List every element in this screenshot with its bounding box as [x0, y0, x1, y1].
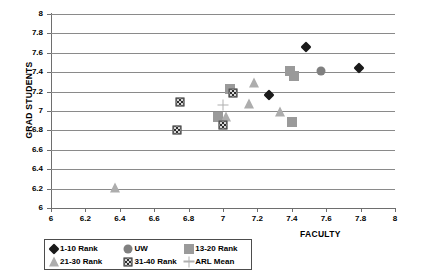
data-point: [317, 67, 326, 76]
x-tick-mark: [292, 208, 293, 212]
chart-legend: 1-10 RankUW13-20 Rank21-30 Rank31-40 Ran…: [44, 239, 252, 270]
data-point: [219, 120, 228, 129]
y-tick-mark: [47, 92, 51, 93]
y-tick-label: 6.4: [3, 165, 43, 173]
gridline-y: [51, 169, 395, 170]
x-tick-mark: [223, 208, 224, 212]
y-tick-label: 7.2: [3, 88, 43, 96]
gridline-y: [51, 92, 395, 93]
hatched-square-icon: [123, 256, 134, 267]
y-tick-mark: [47, 72, 51, 73]
y-tick-mark: [47, 169, 51, 170]
y-tick-mark: [47, 14, 51, 15]
gridline-y: [51, 53, 395, 54]
y-tick-label: 8: [3, 10, 43, 18]
square-icon: [183, 243, 194, 254]
data-point: [289, 71, 299, 81]
y-tick-label: 6.6: [3, 146, 43, 154]
x-tick-label: 8: [375, 215, 415, 223]
data-point: [287, 117, 297, 127]
y-tick-mark: [47, 189, 51, 190]
x-tick-mark: [361, 208, 362, 212]
x-tick-mark: [257, 208, 258, 212]
data-point: [229, 88, 238, 97]
x-tick-mark: [51, 208, 52, 212]
legend-row: 1-10 RankUW13-20 Rank: [48, 242, 248, 255]
diamond-icon: [48, 243, 59, 254]
gridline-y: [51, 33, 395, 34]
y-tick-mark: [47, 150, 51, 151]
x-tick-mark: [189, 208, 190, 212]
legend-label: ARL Mean: [195, 257, 234, 266]
y-tick-label: 6.8: [3, 126, 43, 134]
legend-label: 31-40 Rank: [135, 257, 177, 266]
circle-icon: [123, 243, 134, 254]
legend-label: 13-20 Rank: [195, 244, 237, 253]
scatter-chart: GRAD STUDENTS FACULTY 66.26.46.66.877.27…: [0, 0, 421, 280]
plus-icon: [183, 256, 194, 267]
y-tick-label: 7.8: [3, 29, 43, 37]
x-tick-mark: [85, 208, 86, 212]
data-point: [218, 100, 229, 111]
x-tick-mark: [395, 208, 396, 212]
y-axis-title: GRAD STUDENTS: [24, 40, 34, 160]
x-tick-mark: [154, 208, 155, 212]
legend-item-31-40-rank[interactable]: 31-40 Rank: [123, 255, 184, 268]
legend-label: 1-10 Rank: [60, 244, 98, 253]
y-tick-label: 7: [3, 107, 43, 115]
gridline-y: [51, 150, 395, 151]
legend-item-21-30-rank[interactable]: 21-30 Rank: [48, 255, 123, 268]
data-point: [110, 182, 120, 192]
x-tick-mark: [326, 208, 327, 212]
y-tick-mark: [47, 53, 51, 54]
y-tick-label: 6.2: [3, 185, 43, 193]
data-point: [249, 77, 259, 87]
data-point: [244, 99, 254, 109]
x-axis-title: FACULTY: [300, 229, 341, 239]
data-point: [275, 106, 285, 116]
legend-label: UW: [135, 244, 148, 253]
legend-item-uw[interactable]: UW: [123, 242, 184, 255]
y-tick-mark: [47, 111, 51, 112]
y-tick-mark: [47, 130, 51, 131]
data-point: [176, 98, 185, 107]
legend-row: 21-30 Rank31-40 RankARL Mean: [48, 255, 248, 268]
gridline-y: [51, 189, 395, 190]
legend-item-1-10-rank[interactable]: 1-10 Rank: [48, 242, 123, 255]
legend-item-13-20-rank[interactable]: 13-20 Rank: [183, 242, 248, 255]
legend-label: 21-30 Rank: [60, 257, 102, 266]
gridline-y: [51, 14, 395, 15]
y-tick-label: 7.4: [3, 68, 43, 76]
data-point: [172, 126, 181, 135]
y-tick-label: 6: [3, 204, 43, 212]
gridline-y: [51, 130, 395, 131]
triangle-icon: [48, 256, 59, 267]
gridline-y: [51, 72, 395, 73]
legend-item-arl-mean[interactable]: ARL Mean: [183, 255, 248, 268]
x-tick-mark: [120, 208, 121, 212]
y-tick-label: 7.6: [3, 49, 43, 57]
y-tick-mark: [47, 33, 51, 34]
